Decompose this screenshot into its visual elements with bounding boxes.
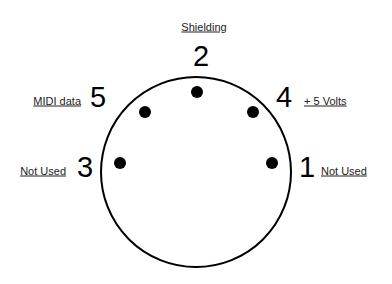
pin-2-dot	[191, 86, 203, 98]
pin-3-label: Not Used	[20, 166, 66, 177]
pin-1-number: 1	[299, 153, 315, 182]
pin-1-dot	[266, 157, 278, 169]
pin-5-dot	[139, 106, 151, 118]
pin-5-label: MIDI data	[33, 96, 81, 107]
pin-4-dot	[247, 106, 259, 118]
pin-4-label: + 5 Volts	[304, 96, 347, 107]
pin-4-number: 4	[276, 83, 292, 112]
connector-outline	[101, 77, 291, 267]
pin-3-dot	[114, 157, 126, 169]
pin-5-number: 5	[90, 83, 106, 112]
pin-2-label: Shielding	[181, 22, 226, 33]
pin-2-number: 2	[193, 42, 209, 71]
pin-3-number: 3	[77, 153, 93, 182]
pin-1-label: Not Used	[321, 166, 367, 177]
